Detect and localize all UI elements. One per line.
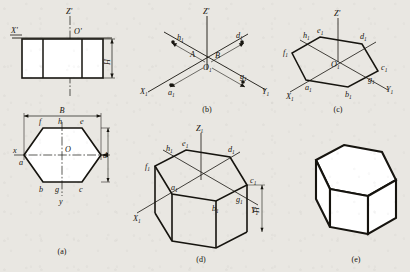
panel-c-label-z: Z' <box>334 9 341 18</box>
caption-e: (e) <box>352 255 361 264</box>
panel-c-label-d1: d1 <box>360 32 367 42</box>
panel-b-label-y1: Y1 <box>262 87 270 97</box>
panel-d-label-h1: h1 <box>166 144 173 154</box>
panel-d-dim-H-label: H <box>252 206 261 214</box>
panel-d-dim-H-arrow-bottom <box>261 228 264 232</box>
panel-d-label-z1: Z1 <box>196 124 204 134</box>
dim-H-label: H <box>103 58 112 66</box>
panel-d-axis-x1 <box>137 152 240 213</box>
panel-b-point-d1 <box>240 40 244 44</box>
label-h: h <box>58 117 62 126</box>
caption-d: (d) <box>196 255 206 264</box>
panel-d: Z1 X1 Y1 H e1 h1 d1 f1 c1 a1 b1 g1 (d) <box>132 124 265 264</box>
dim-B-arrow-right <box>97 114 101 117</box>
panel-c-label-x1: X1 <box>285 92 294 102</box>
panel-b-dim-a1 <box>170 68 203 87</box>
panel-b-dim-B-label: B <box>215 51 220 60</box>
panel-c-label-b1: b1 <box>345 90 352 100</box>
panel-b: Z' X1 Y1 A B h1 d1 a1 g1 O1 (b) <box>139 7 270 114</box>
panel-d-label-f1: f1 <box>145 162 150 172</box>
label-x-prime: X' <box>10 26 18 35</box>
panel-c-label-f1: f1 <box>283 48 288 58</box>
front-view-outline <box>22 39 103 78</box>
label-x-lower: x <box>12 146 17 155</box>
label-y-lower: y <box>58 197 63 206</box>
panel-e-front-left-face <box>330 189 368 234</box>
panel-d-bottom-edges <box>155 213 247 248</box>
panel-d-label-c1: c1 <box>250 176 257 186</box>
panel-b-label-o1: O1 <box>203 63 212 73</box>
panel-b-point-h1 <box>171 40 175 44</box>
panel-c-label-y1: Y1 <box>386 85 394 95</box>
dim-B-arrow-left <box>24 114 28 117</box>
dim-H-arrow-bottom <box>110 74 113 78</box>
panel-c-label-g1: g1 <box>368 75 375 85</box>
dim-H-arrow-top <box>110 39 113 43</box>
top-view-dim-arrow-top <box>107 128 110 132</box>
panel-c-label-c1: c1 <box>381 63 388 73</box>
label-o-center: O <box>65 145 71 154</box>
panel-b-label-h1: h1 <box>177 33 184 43</box>
label-z-prime: Z' <box>66 7 73 16</box>
label-c: c <box>79 185 83 194</box>
panel-b-dim-A-label: A <box>189 50 196 59</box>
panel-b-label-g1: g1 <box>240 72 247 82</box>
panel-d-label-b1: b1 <box>212 204 219 214</box>
panel-b-axis-x1 <box>148 34 248 92</box>
panel-d-label-a1: a1 <box>171 183 178 193</box>
panel-c-label-e1: e1 <box>317 26 324 36</box>
label-b: b <box>39 185 43 194</box>
label-a: a <box>19 158 23 167</box>
label-e: e <box>80 117 84 126</box>
panel-d-axis-y1 <box>163 150 258 205</box>
label-g: g <box>55 185 59 194</box>
panel-b-label-a1: a1 <box>168 88 175 98</box>
panel-b-label-x1: X1 <box>139 87 148 97</box>
caption-a: (a) <box>58 247 67 256</box>
panel-c-label-o1: O1 <box>331 60 340 70</box>
dim-B-label: B <box>59 106 64 115</box>
panel-d-label-x1: X1 <box>132 214 141 224</box>
top-view-dim-arrow-bottom <box>107 178 110 182</box>
panel-d-dim-H-arrow-top <box>261 185 264 189</box>
panel-c-label-a1: a1 <box>305 83 312 93</box>
panel-d-label-e1: e1 <box>182 139 189 149</box>
caption-c: (c) <box>334 105 343 114</box>
panel-b-label-z: Z' <box>203 7 210 16</box>
label-o-prime: O' <box>74 27 82 36</box>
panel-d-label-d1: d1 <box>228 145 235 155</box>
engineering-drawing-svg: H X' Z' O' B a b c d e f g <box>0 0 410 272</box>
panel-c-label-h1: h1 <box>303 31 310 41</box>
panel-d-label-g1: g1 <box>236 195 243 205</box>
label-f: f <box>39 117 43 126</box>
panel-c: Z' X1 Y1 e1 h1 d1 f1 c1 a1 b1 g1 O1 (c) <box>283 9 394 114</box>
panel-a: H X' Z' O' B a b c d e f g <box>10 7 115 256</box>
caption-b: (b) <box>202 105 212 114</box>
panel-b-point-a1 <box>169 83 173 87</box>
panel-e: (e) <box>316 145 396 264</box>
figure-canvas: H X' Z' O' B a b c d e f g <box>0 0 410 272</box>
panel-b-label-d1: d1 <box>236 31 243 41</box>
